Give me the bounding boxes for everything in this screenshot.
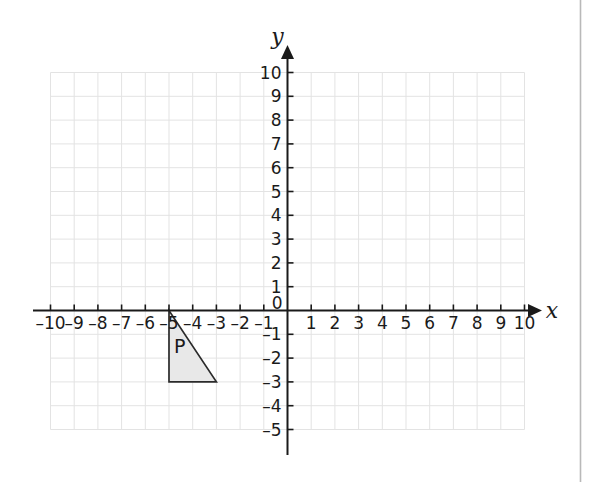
y-tick-label: 2 (271, 253, 282, 273)
x-axis-name-label: x (546, 298, 559, 323)
y-tick-label: –4 (262, 396, 281, 416)
shape-label-p: P (174, 335, 185, 357)
y-tick-label: 9 (271, 86, 282, 106)
y-axis-name-label: y (270, 24, 284, 49)
y-tick-label: –5 (262, 420, 281, 440)
y-tick-label: 7 (271, 134, 282, 154)
x-tick-label: 6 (424, 313, 435, 333)
x-tick-label: 9 (495, 313, 506, 333)
axis-name-labels: xy (270, 24, 559, 323)
x-tick-label: –6 (136, 313, 155, 333)
x-tick-label: –3 (207, 313, 226, 333)
x-tick-label: 2 (329, 313, 340, 333)
x-tick-label: 10 (514, 313, 536, 333)
origin-label: 0 (272, 293, 283, 313)
y-tick-label: 3 (271, 229, 282, 249)
y-tick-label: –3 (262, 372, 281, 392)
y-tick-label: 6 (271, 158, 282, 178)
y-tick-label: 8 (271, 110, 282, 130)
x-tick-label: 7 (448, 313, 459, 333)
x-tick-label: 4 (377, 313, 388, 333)
x-tick-label: 3 (353, 313, 364, 333)
x-tick-label: 1 (306, 313, 317, 333)
axes (33, 45, 542, 455)
y-tick-label: 10 (260, 63, 282, 83)
y-tick-label: 4 (271, 205, 282, 225)
x-tick-label: –4 (183, 313, 202, 333)
y-tick-label: –2 (262, 348, 281, 368)
x-tick-label: 8 (472, 313, 483, 333)
y-tick-label: –1 (262, 324, 281, 344)
x-tick-label: –10 (35, 313, 65, 333)
axis-tick-labels: –10–9–8–7–6–5–4–3–2–11234567891010987654… (35, 63, 535, 440)
x-tick-label: –5 (159, 313, 178, 333)
x-tick-label: 5 (401, 313, 412, 333)
y-tick-label: 5 (271, 182, 282, 202)
coordinate-plane-figure: P –10–9–8–7–6–5–4–3–2–112345678910109876… (0, 0, 601, 482)
coordinate-plane-svg: P –10–9–8–7–6–5–4–3–2–112345678910109876… (0, 0, 601, 482)
x-tick-label: –7 (112, 313, 131, 333)
x-tick-label: –2 (230, 313, 249, 333)
x-tick-label: –8 (88, 313, 107, 333)
x-tick-label: –9 (65, 313, 84, 333)
